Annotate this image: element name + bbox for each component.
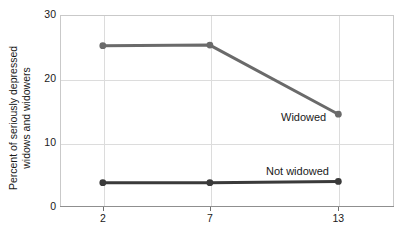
series-layer [0, 0, 403, 236]
data-point [206, 179, 213, 186]
data-point [335, 178, 342, 185]
data-point [99, 42, 106, 49]
series-line-widowed [103, 45, 339, 114]
series-label-not-widowed: Not widowed [266, 165, 329, 177]
series-label-widowed: Widowed [281, 111, 326, 123]
data-point [99, 179, 106, 186]
data-point [335, 111, 342, 118]
data-point [206, 42, 213, 49]
line-chart: Percent of seriously depressed widows an… [0, 0, 403, 236]
series-line-not-widowed [103, 181, 339, 182]
